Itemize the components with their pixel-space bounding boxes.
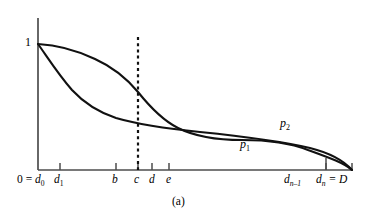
figure-caption: (a) — [172, 196, 185, 208]
x-tick-label-d1-base: d — [54, 173, 60, 185]
x-tick-label-dn-sub: n — [322, 179, 326, 188]
x-tick-label-dn: dn = D — [316, 174, 347, 186]
x-tick-label-d1: d1 — [54, 174, 64, 186]
x-tick-label-c-base: c — [134, 173, 139, 185]
x-tick-label-b-base: b — [112, 173, 118, 185]
x-tick-label-d0-sub: 0 — [41, 179, 45, 188]
curve-label-p2-sub: 2 — [286, 123, 290, 132]
x-tick-label-e-base: e — [166, 173, 171, 185]
x-tick-label-dn1-sub: n–1 — [290, 179, 301, 188]
curve-label-p1: p1 — [240, 138, 250, 150]
x-tick-label-e: e — [166, 174, 171, 186]
x-tick-label-d0-base: d — [35, 173, 41, 185]
x-tick-label-dn-base: d — [316, 173, 322, 185]
x-tick-label-b: b — [112, 174, 118, 186]
curve-p2 — [38, 44, 352, 170]
x-tick-label-dn1-base: d — [284, 173, 290, 185]
x-tick-label-d-base: d — [149, 173, 155, 185]
x-tick-label-d0-prefix: 0 = — [17, 173, 35, 185]
y-axis-max-label: 1 — [25, 36, 31, 48]
x-tick-label-c: c — [134, 174, 139, 186]
x-tick-label-d0: 0 = d0 — [17, 174, 45, 186]
x-tick-label-d1-sub: 1 — [60, 179, 64, 188]
curve-p1 — [38, 44, 352, 170]
curve-label-p1-sub: 1 — [246, 144, 250, 153]
x-tick-label-d: d — [149, 174, 155, 186]
x-tick-label-dn1: dn–1 — [284, 174, 301, 186]
curve-label-p2: p2 — [280, 117, 290, 129]
figure-container: 1 p1 p2 0 = d0 d1 b c d e dn–1 dn = D (a… — [0, 0, 365, 218]
x-tick-label-dn-suffix: = D — [326, 173, 348, 185]
